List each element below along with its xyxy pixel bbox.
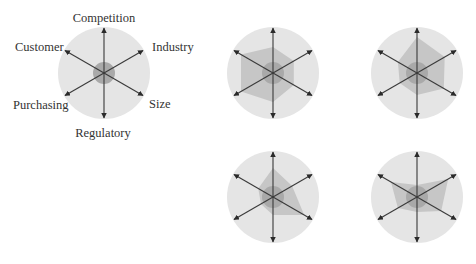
label-purchasing: Purchasing [13, 98, 69, 112]
label-industry: Industry [152, 40, 194, 54]
profile-radar-1 [227, 27, 319, 119]
radar-diagram: Competition Customer Industry Purchasing… [0, 0, 476, 264]
label-competition: Competition [73, 11, 136, 25]
label-regulatory: Regulatory [75, 126, 131, 140]
profile-radar-4 [371, 151, 463, 243]
profile-radar-3 [227, 151, 319, 243]
profile-radar-2 [371, 27, 463, 119]
key-diagram [58, 27, 150, 119]
label-customer: Customer [15, 40, 64, 54]
label-size: Size [149, 97, 171, 111]
